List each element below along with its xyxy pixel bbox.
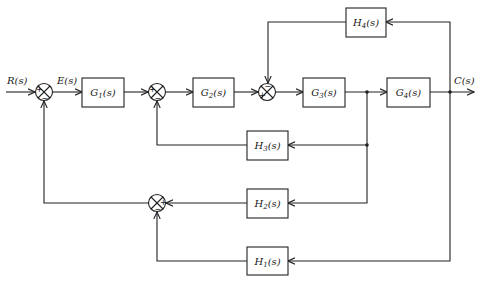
plus-sign: + — [36, 85, 43, 94]
block-g3: G3(s) — [303, 78, 345, 107]
wire-h2-in — [288, 145, 367, 203]
wire-h4-out — [268, 22, 346, 83]
block-g2: G2(s) — [193, 78, 234, 107]
summing-junction-4: + − — [149, 195, 167, 215]
block-h4: H4(s) — [346, 8, 386, 37]
plus-sign: + — [259, 91, 266, 100]
block-h2: H2(s) — [247, 189, 288, 218]
summing-junction-3: + − — [259, 82, 276, 101]
input-signal-label: R(s) — [6, 75, 28, 86]
minus-sign: − — [155, 205, 162, 214]
block-h3: H3(s) — [247, 131, 288, 160]
summing-junction-1: + − — [36, 84, 53, 104]
summing-junction-2: + − — [149, 84, 166, 104]
block-h1: H1(s) — [247, 247, 288, 275]
error-signal-label: E(s) — [56, 75, 77, 86]
block-diagram: R(s) + − E(s) G1(s) + − G2(s) + − — [0, 0, 481, 288]
wire-h1-in — [288, 92, 450, 261]
minus-sign: − — [265, 82, 272, 91]
wire-h3-out — [157, 101, 247, 145]
wire-s4-s1 — [44, 101, 149, 203]
block-g4: G4(s) — [387, 78, 430, 107]
wire-h1-out — [157, 212, 247, 261]
minus-sign: − — [155, 94, 162, 103]
output-signal-label: C(s) — [454, 75, 475, 86]
plus-sign: + — [149, 85, 156, 94]
minus-sign: − — [42, 94, 49, 103]
block-g1: G1(s) — [82, 78, 124, 107]
